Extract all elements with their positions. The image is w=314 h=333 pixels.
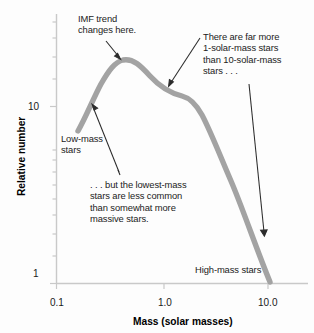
imf-chart-figure: Relative number Mass (solar masses) 10 1… — [0, 0, 314, 333]
imf-curve — [78, 60, 270, 282]
x-tick-label-0-1: 0.1 — [50, 297, 64, 308]
x-axis-title: Mass (solar masses) — [133, 316, 233, 327]
y-tick-label-1: 1 — [33, 268, 39, 279]
x-axis-ticks — [57, 284, 269, 290]
annotation-imf-trend: IMF trend changes here. — [78, 13, 136, 36]
y-axis-ticks — [50, 22, 56, 284]
y-axis-title: Relative number — [16, 117, 27, 196]
annotation-high-mass-stars: High-mass stars — [195, 264, 261, 275]
annotation-abundance: There are far more 1-solar-mass stars th… — [203, 31, 281, 77]
x-tick-label-1-0: 1.0 — [158, 297, 172, 308]
annotation-low-mass-stars: Low-mass stars — [61, 133, 103, 156]
x-tick-label-10-0: 10.0 — [258, 297, 277, 308]
annotation-lowest-mass: . . . but the lowest-mass stars are less… — [90, 179, 187, 225]
y-tick-label-10: 10 — [28, 101, 39, 112]
